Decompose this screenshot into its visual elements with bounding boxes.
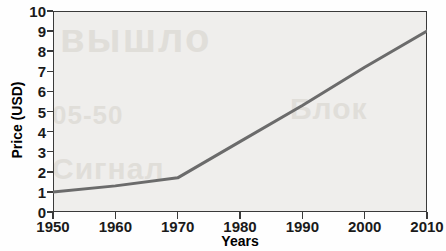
y-tick-label: 9 [20,23,46,40]
y-tick-mark [47,171,53,173]
x-tick-mark [302,212,304,219]
y-tick-label: 2 [20,163,46,180]
x-tick-mark [52,212,54,219]
chart-figure: вышло 05-50 Сигнал Блок 012345678910 195… [0,0,446,251]
y-axis-title: Price (USD) [9,75,25,165]
y-tick-mark [47,151,53,153]
x-tick-mark [239,212,241,219]
y-tick-label: 10 [20,3,46,20]
x-axis-title: Years [53,233,427,249]
y-tick-mark [47,50,53,52]
price-line-series [53,31,427,192]
y-tick-mark [47,131,53,133]
x-tick-mark [177,212,179,219]
x-tick-mark [426,212,428,219]
y-tick-label: 1 [20,183,46,200]
line-series-svg [53,11,427,212]
y-tick-mark [47,30,53,32]
y-tick-mark [47,91,53,93]
y-tick-label: 8 [20,43,46,60]
y-tick-mark [47,71,53,73]
x-tick-mark [364,212,366,219]
y-tick-mark [47,111,53,113]
x-tick-mark [115,212,117,219]
y-tick-mark [47,10,53,12]
y-tick-mark [47,191,53,193]
